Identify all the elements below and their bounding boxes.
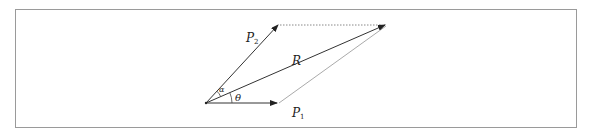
label-alpha: α <box>219 85 225 94</box>
label-p1: P1 <box>291 106 305 121</box>
vector-p2 <box>206 25 278 103</box>
label-theta: θ <box>235 92 241 103</box>
parallelogram-figure: P2 R α θ P1 <box>0 0 589 133</box>
vector-diagram: P2 R α θ P1 <box>0 0 589 133</box>
label-p2: P2 <box>245 31 259 46</box>
origin-point <box>205 102 207 104</box>
theta-arc <box>230 93 232 103</box>
label-r: R <box>291 54 301 68</box>
